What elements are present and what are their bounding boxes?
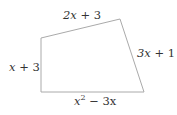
quadrilateral-shape: [41, 19, 144, 92]
top-side-label: 2x + 3: [62, 8, 101, 22]
left-side-label: x + 3: [9, 60, 40, 74]
quadrilateral-diagram: 2x + 3 3x + 1 x + 3 x2 − 3x: [0, 0, 177, 115]
bottom-side-label: x2 − 3x: [74, 93, 117, 108]
right-side-label: 3x + 1: [137, 46, 175, 60]
